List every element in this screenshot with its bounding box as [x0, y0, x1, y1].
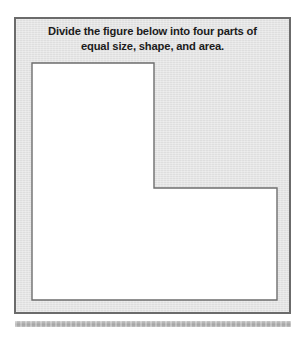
separator-bar [15, 321, 291, 327]
figure-stage [16, 19, 289, 312]
worksheet-panel: Divide the figure below into four parts … [14, 17, 291, 314]
prompt-line-2: equal size, shape, and area. [26, 39, 279, 54]
puzzle-prompt: Divide the figure below into four parts … [26, 24, 279, 53]
prompt-line-1: Divide the figure below into four parts … [26, 24, 279, 39]
page-root: Divide the figure below into four parts … [0, 0, 306, 339]
l-shape-polygon [32, 63, 277, 300]
l-shape-figure-svg [16, 19, 289, 312]
